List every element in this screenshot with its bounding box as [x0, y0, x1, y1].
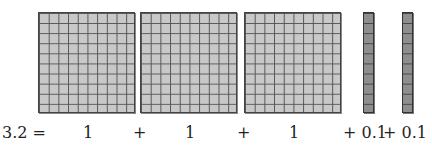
term-4: + 0.1: [343, 124, 387, 142]
term-1: 1: [83, 124, 93, 142]
rod-block-2: [402, 12, 413, 113]
rod-block-1: [363, 12, 374, 113]
equation-lhs: 3.2 =: [2, 124, 46, 142]
flat-block-1: [38, 12, 135, 113]
term-2: 1: [185, 124, 195, 142]
plus-1: +: [133, 124, 146, 142]
term-3: 1: [289, 124, 299, 142]
flat-block-2: [140, 12, 237, 113]
plus-2: +: [237, 124, 250, 142]
flat-block-3: [244, 12, 341, 113]
term-5: + 0.1: [383, 124, 427, 142]
